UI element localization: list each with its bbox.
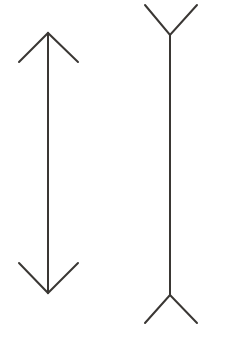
muller-lyer-illustration: [0, 0, 225, 341]
right-figure-top-fins: [145, 5, 197, 35]
right-figure-bottom-fins: [145, 295, 197, 323]
left-figure-fins-in: [19, 33, 78, 293]
right-figure-fins-out: [145, 5, 197, 323]
illusion-canvas: [0, 0, 225, 341]
